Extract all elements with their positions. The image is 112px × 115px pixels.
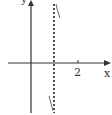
y-axis-arrow-icon [28, 0, 34, 6]
curve-lower-branch [49, 96, 53, 111]
function-graph: y x 2 [0, 0, 112, 115]
x-tick-label: 2 [74, 66, 81, 79]
x-axis-label: x [104, 67, 111, 80]
x-axis-arrow-icon [104, 60, 111, 66]
y-axis-label: y [20, 0, 28, 6]
curve-upper-branch [56, 4, 60, 18]
